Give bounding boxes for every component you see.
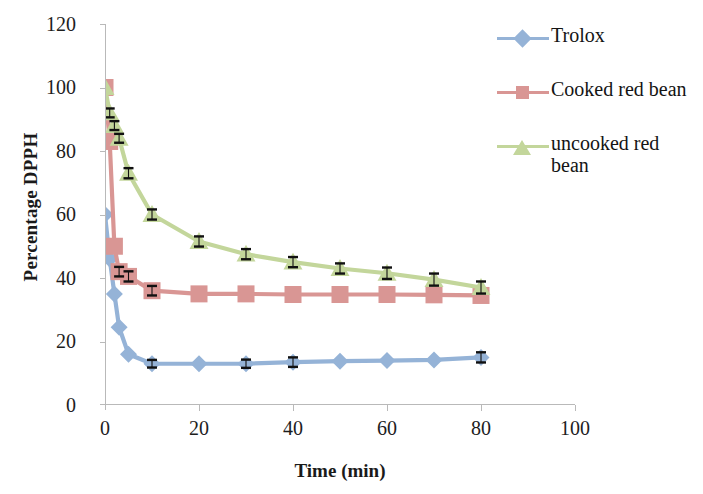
- y-tick-label: 80: [20, 141, 76, 161]
- y-tickmark: [100, 215, 106, 216]
- data-point-marker: [332, 353, 349, 370]
- y-tick-label: 20: [20, 331, 76, 351]
- data-point-marker: [379, 286, 396, 303]
- x-tick-label: 60: [357, 418, 417, 438]
- legend-label-uncooked-red-bean: uncooked red bean: [549, 132, 702, 177]
- data-point-marker: [426, 351, 443, 368]
- legend-item-cooked-red-bean: Cooked red bean: [497, 78, 702, 102]
- legend-label-trolox: Trolox: [549, 24, 605, 46]
- y-tick-label: 100: [20, 77, 76, 97]
- x-tickmark: [293, 405, 294, 411]
- x-tickmark: [481, 405, 482, 411]
- x-tickmark: [575, 405, 576, 411]
- series-cooked-red-bean: [105, 79, 490, 304]
- legend-item-uncooked-red-bean: uncooked red bean: [497, 132, 702, 177]
- data-point-marker: [191, 285, 208, 302]
- y-tickmark: [100, 88, 106, 89]
- y-tickmark: [100, 342, 106, 343]
- data-point-marker: [106, 238, 123, 255]
- legend-label-cooked-red-bean: Cooked red bean: [549, 78, 687, 100]
- legend-key-trolox: [497, 28, 549, 48]
- data-point-marker: [285, 286, 302, 303]
- data-point-marker: [106, 285, 123, 302]
- x-tick-label: 100: [545, 418, 605, 438]
- y-tick-label: 120: [20, 14, 76, 34]
- x-tick-label: 20: [169, 418, 229, 438]
- data-point-marker: [238, 285, 255, 302]
- data-point-marker: [379, 352, 396, 369]
- x-tick-label: 40: [263, 418, 323, 438]
- data-point-marker: [120, 346, 137, 363]
- x-tick-label: 80: [451, 418, 511, 438]
- x-tickmark: [199, 405, 200, 411]
- dpph-line-chart: Percentage DPPH 120 100 80 60 40 20 0 0 …: [0, 0, 703, 494]
- data-point-marker: [111, 319, 128, 336]
- y-tickmark: [100, 24, 106, 25]
- data-point-marker: [191, 355, 208, 372]
- x-axis-title: Time (min): [105, 460, 575, 482]
- legend-key-cooked-red-bean: [497, 82, 549, 102]
- data-point-marker: [426, 286, 443, 303]
- x-tickmark: [387, 405, 388, 411]
- legend-key-uncooked-red-bean: [497, 136, 549, 156]
- y-tick-label: 40: [20, 268, 76, 288]
- y-tick-label: 0: [20, 395, 76, 415]
- x-axis-line: [105, 404, 575, 405]
- y-tick-label: 60: [20, 204, 76, 224]
- x-tickmark: [105, 399, 106, 410]
- x-tick-label: 0: [75, 418, 135, 438]
- chart-legend: Trolox Cooked red bean uncooked red bean: [497, 24, 702, 207]
- series-uncooked-red-bean: [105, 78, 491, 295]
- data-point-marker: [332, 286, 349, 303]
- legend-item-trolox: Trolox: [497, 24, 702, 48]
- y-tickmark: [100, 278, 106, 279]
- y-tickmark: [100, 151, 106, 152]
